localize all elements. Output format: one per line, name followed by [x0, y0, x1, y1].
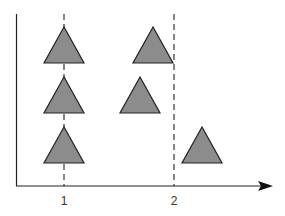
- triangle-group1-middle: [44, 77, 84, 113]
- triangle-right-bottom: [182, 127, 222, 163]
- x-tick-label-1: 1: [61, 194, 68, 208]
- x-tick-label-2: 2: [171, 194, 178, 208]
- triangle-mid-top: [133, 27, 173, 63]
- triangles: [44, 27, 222, 163]
- triangle-mid-middle: [120, 77, 160, 113]
- triangle-diagram: 1 2: [0, 0, 285, 216]
- triangle-group1-top: [44, 27, 84, 63]
- triangle-group1-bottom: [44, 127, 84, 163]
